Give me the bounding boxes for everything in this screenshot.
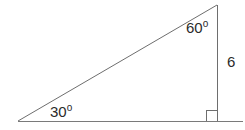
angle-label-bottom-left: 30o xyxy=(50,103,72,120)
angle-label-top-right: 60o xyxy=(186,19,208,36)
degree-symbol-icon-bottom-left: o xyxy=(67,102,73,113)
right-angle-marker-icon xyxy=(206,110,217,121)
angle-value-top-right: 60 xyxy=(186,19,203,36)
triangle-drawing xyxy=(0,0,245,130)
side-label-right: 6 xyxy=(227,54,235,70)
triangle-figure: 30o 60o 6 xyxy=(0,0,245,130)
degree-symbol-icon-top-right: o xyxy=(203,18,209,29)
angle-value-bottom-left: 30 xyxy=(50,103,67,120)
